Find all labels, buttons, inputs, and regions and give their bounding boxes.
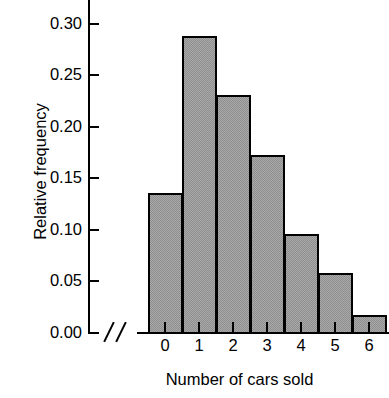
x-tick-label-5: 5 — [323, 336, 347, 355]
x-tick-3 — [266, 322, 268, 332]
y-axis-line — [88, 0, 90, 334]
y-tick-label-4-wrap: 0.20 — [26, 118, 82, 135]
y-tick-label-1-wrap: 0.05 — [26, 272, 82, 289]
y-tick-5 — [90, 74, 99, 76]
x-tick-5 — [334, 322, 336, 332]
y-tick-label-1: 0.05 — [26, 272, 82, 289]
x-tick-0 — [164, 322, 166, 332]
bar-0 — [148, 193, 183, 334]
x-tick-label-4: 4 — [289, 336, 313, 355]
x-tick-4 — [300, 322, 302, 332]
x-tick-label-3: 3 — [255, 336, 279, 355]
y-tick-1 — [90, 280, 99, 282]
y-tick-label-5: 0.25 — [26, 66, 82, 83]
bar-1 — [182, 36, 217, 334]
y-tick-label-6: 0.30 — [26, 15, 82, 32]
x-tick-2 — [232, 322, 234, 332]
y-tick-label-2: 0.10 — [26, 221, 82, 238]
bar-2 — [216, 95, 251, 334]
x-tick-6 — [368, 322, 370, 332]
x-tick-label-0: 0 — [153, 336, 177, 355]
x-tick-label-6: 6 — [357, 336, 381, 355]
bar-4 — [284, 234, 319, 334]
y-tick-label-0: 0.00 — [26, 324, 82, 341]
y-tick-0 — [90, 332, 99, 334]
histogram-figure: Relative frequency 0.00 0.05 0.10 0.15 0… — [0, 0, 389, 398]
y-tick-label-4: 0.20 — [26, 118, 82, 135]
x-axis-title: Number of cars sold — [90, 370, 389, 389]
y-tick-6 — [90, 23, 99, 25]
bar-3 — [250, 155, 285, 334]
y-tick-2 — [90, 229, 99, 231]
x-tick-label-1: 1 — [187, 336, 211, 355]
y-tick-4 — [90, 126, 99, 128]
y-tick-3 — [90, 177, 99, 179]
x-tick-1 — [198, 322, 200, 332]
y-tick-label-2-wrap: 0.10 — [26, 221, 82, 238]
y-tick-label-0-wrap: 0.00 — [26, 324, 82, 341]
y-tick-label-3-wrap: 0.15 — [26, 169, 82, 186]
x-tick-label-2: 2 — [221, 336, 245, 355]
y-tick-label-6-wrap: 0.30 — [26, 15, 82, 32]
y-tick-label-5-wrap: 0.25 — [26, 66, 82, 83]
y-tick-label-3: 0.15 — [26, 169, 82, 186]
